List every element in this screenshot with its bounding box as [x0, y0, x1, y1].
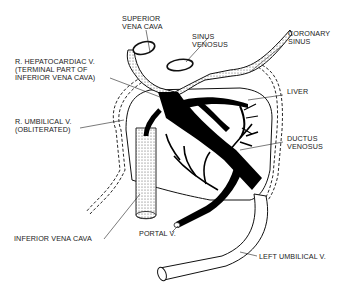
inferior-vena-cava-shape: [136, 128, 156, 219]
label-sinus-venosus: SINUS VENOSUS: [192, 33, 228, 49]
label-ductus-venosus: DUCTUS VENOSUS: [287, 135, 323, 151]
venous-system-diagram: SUPERIOR VENA CAVA SINUS VENOSUS CORONAR…: [0, 0, 345, 287]
superior-vena-cava-opening: [132, 39, 156, 56]
label-portal-v: PORTAL V.: [139, 230, 176, 238]
sinus-venosus-opening: [166, 58, 193, 73]
label-liver: LIVER: [287, 88, 308, 96]
label-r-hepatocardiac-v: R. HEPATOCARDIAC V. (TERMINAL PART OF IN…: [15, 58, 95, 82]
label-r-umbilical-v: R. UMBILICAL V. (OBLITERATED): [15, 118, 72, 134]
label-inferior-vena-cava: INFERIOR VENA CAVA: [14, 235, 92, 243]
label-left-umbilical-v: LEFT UMBILICAL V.: [259, 253, 326, 261]
label-coronary-sinus: CORONARY SINUS: [288, 30, 330, 46]
label-superior-vena-cava: SUPERIOR VENA CAVA: [122, 15, 163, 31]
